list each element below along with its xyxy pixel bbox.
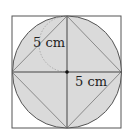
label-lower-right: 5 cm — [75, 74, 107, 89]
geometry-figure: 5 cm 5 cm — [0, 0, 129, 136]
label-upper-left: 5 cm — [33, 35, 65, 50]
center-point — [65, 70, 69, 74]
